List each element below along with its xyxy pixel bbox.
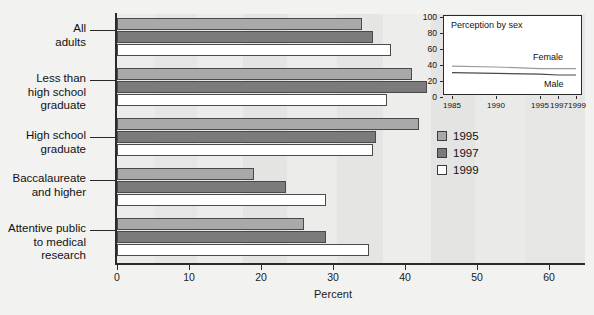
bar-baccalaureate-1995 <box>117 168 254 180</box>
x-tick <box>261 265 262 270</box>
inset-chart-perception-by-sex: Perception by sex 100 80 60 40 20 0 1985… <box>409 11 586 118</box>
chart-root: 0 10 20 30 40 50 60 Percent All adults L… <box>0 0 594 315</box>
inset-x-tick <box>540 96 541 99</box>
inset-x-label: 1990 <box>487 101 505 110</box>
bar-attentive-public-1999 <box>117 244 369 256</box>
bar-hs-graduate-1997 <box>117 131 376 143</box>
x-axis-line <box>115 263 585 265</box>
legend-label-1997: 1997 <box>453 147 479 159</box>
bar-all-adults-1999 <box>117 44 391 56</box>
inset-x-label: 1997 <box>550 101 568 110</box>
legend-item-1995[interactable]: 1995 <box>437 128 479 143</box>
x-tick <box>117 265 118 270</box>
legend-swatch-1995 <box>437 131 447 141</box>
bar-hs-graduate-1999 <box>117 144 373 156</box>
category-leader <box>90 30 115 31</box>
x-tick <box>405 265 406 270</box>
x-axis-title: Percent <box>0 288 594 300</box>
inset-y-label: 60 <box>415 44 437 54</box>
inset-y-label: 80 <box>415 28 437 38</box>
inset-x-label: 1995 <box>531 101 549 110</box>
inset-x-tick <box>576 96 577 99</box>
inset-x-tick <box>452 96 453 99</box>
category-label-less-than-high-school: Less than high school graduate <box>28 72 86 113</box>
bar-less-than-hs-1995 <box>117 68 412 80</box>
legend: 1995 1997 1999 <box>437 128 479 179</box>
bar-all-adults-1995 <box>117 18 362 30</box>
bar-attentive-public-1997 <box>117 231 326 243</box>
category-leader <box>90 137 115 138</box>
inset-x-tick <box>558 96 559 99</box>
category-leader <box>90 230 115 231</box>
category-leader <box>90 180 115 181</box>
x-tick <box>333 265 334 270</box>
bar-less-than-hs-1997 <box>117 81 427 93</box>
legend-swatch-1999 <box>437 165 447 175</box>
inset-x-label: 1999 <box>568 101 586 110</box>
inset-y-label: 40 <box>415 60 437 70</box>
x-tick-label: 10 <box>183 271 195 283</box>
x-tick <box>549 265 550 270</box>
bar-all-adults-1997 <box>117 31 373 43</box>
bar-attentive-public-1995 <box>117 218 304 230</box>
inset-y-tick <box>440 97 443 98</box>
inset-y-label: 20 <box>415 76 437 86</box>
inset-y-label: 0 <box>415 92 437 102</box>
x-tick-label: 0 <box>114 271 120 283</box>
x-axis-title-text: Percent <box>314 288 352 300</box>
legend-item-1997[interactable]: 1997 <box>437 145 479 160</box>
inset-x-tick <box>496 96 497 99</box>
x-tick-label: 60 <box>543 271 555 283</box>
inset-line-male <box>452 73 576 75</box>
bar-less-than-hs-1999 <box>117 94 387 106</box>
category-label-all-adults: All adults <box>55 22 86 49</box>
bar-baccalaureate-1999 <box>117 194 326 206</box>
x-tick-label: 50 <box>471 271 483 283</box>
x-tick-label: 30 <box>327 271 339 283</box>
inset-x-label: 1985 <box>443 101 461 110</box>
x-tick-label: 40 <box>399 271 411 283</box>
bar-baccalaureate-1997 <box>117 181 286 193</box>
x-tick <box>189 265 190 270</box>
legend-label-1999: 1999 <box>453 164 479 176</box>
category-label-high-school-graduate: High school graduate <box>26 129 86 156</box>
legend-item-1999[interactable]: 1999 <box>437 162 479 177</box>
category-label-attentive-public: Attentive public to medical research <box>8 222 86 263</box>
inset-y-label: 100 <box>415 12 437 22</box>
inset-line-female <box>452 66 576 68</box>
bar-hs-graduate-1995 <box>117 118 419 130</box>
x-tick-label: 20 <box>255 271 267 283</box>
x-tick <box>477 265 478 270</box>
category-label-baccalaureate-and-higher: Baccalaureate and higher <box>12 172 86 199</box>
legend-label-1995: 1995 <box>453 130 479 142</box>
legend-swatch-1997 <box>437 148 447 158</box>
category-leader <box>90 80 115 81</box>
inset-series-label-female: Female <box>533 52 563 62</box>
inset-series-label-male: Male <box>544 79 564 89</box>
